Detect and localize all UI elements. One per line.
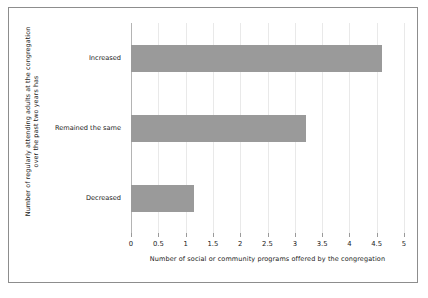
y-axis-tick-label: Increased <box>89 54 121 62</box>
x-axis-tick-label: 5 <box>402 240 406 249</box>
x-tick-mark <box>213 233 214 237</box>
y-axis-tick-label: Decreased <box>86 194 121 202</box>
x-axis-tick-label: 4 <box>347 240 351 249</box>
x-tick-mark <box>186 233 187 237</box>
y-axis-tick-labels: IncreasedRemained the sameDecreased <box>27 23 125 233</box>
x-axis-tick-label: 3.5 <box>317 240 328 249</box>
x-tick-mark <box>404 233 405 237</box>
chart-figure: Number of regularly attending adults at … <box>8 7 418 283</box>
x-axis-tick-label: 2.5 <box>262 240 273 249</box>
x-tick-mark <box>349 233 350 237</box>
y-axis-tick-label: Remained the same <box>55 124 121 132</box>
x-axis-tick-label: 4.5 <box>371 240 382 249</box>
x-tick-mark <box>322 233 323 237</box>
x-axis-tick-label: 2 <box>238 240 242 249</box>
x-axis-tick-label: 1.5 <box>207 240 218 249</box>
bar <box>131 185 194 212</box>
x-axis-title: Number of social or community programs o… <box>131 255 404 264</box>
x-axis-tick-label: 1 <box>183 240 187 249</box>
plot-inner <box>131 23 404 233</box>
plot-area <box>131 23 404 233</box>
gridline <box>404 23 405 233</box>
x-tick-mark <box>131 233 132 237</box>
x-tick-mark <box>158 233 159 237</box>
x-tick-mark <box>268 233 269 237</box>
bar <box>131 115 306 142</box>
x-tick-mark <box>240 233 241 237</box>
x-axis-tick-label: 0 <box>129 240 133 249</box>
x-tick-mark <box>377 233 378 237</box>
x-axis-tick-label: 3 <box>293 240 297 249</box>
bar <box>131 45 382 72</box>
x-tick-mark <box>295 233 296 237</box>
x-axis-tick-label: 0.5 <box>153 240 164 249</box>
